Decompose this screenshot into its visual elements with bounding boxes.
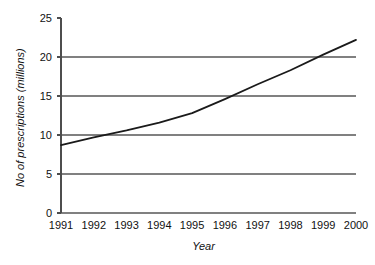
data-series-line [61,40,356,145]
line-chart: 0510152025 19911992199319941995199619971… [0,0,375,265]
x-axis-tick-label: 1994 [147,220,171,231]
y-axis-tick-label: 20 [0,52,52,63]
x-axis-tick-label: 1992 [82,220,106,231]
y-axis-tick-label: 5 [0,169,52,180]
x-axis-tick-label: 1996 [213,220,237,231]
x-axis-tick-label: 1999 [311,220,335,231]
y-axis-title: No of prescriptions (millions) [14,48,26,187]
x-axis-tick-label: 1995 [180,220,204,231]
y-axis-tick-label: 0 [0,208,52,219]
x-axis-title: Year [192,240,215,252]
y-axis-tick-label: 15 [0,91,52,102]
x-axis-tick-label: 1997 [245,220,269,231]
x-axis-tick-label: 1998 [278,220,302,231]
y-axis-tick-label: 25 [0,13,52,24]
axis-lines [57,18,61,213]
y-axis-tick-label: 10 [0,130,52,141]
x-axis-tick-label: 1993 [114,220,138,231]
x-axis-tick-label: 2000 [344,220,368,231]
x-axis-tick-label: 1991 [49,220,73,231]
series-polyline [61,40,356,145]
